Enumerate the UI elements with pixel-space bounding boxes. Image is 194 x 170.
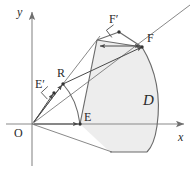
- point-dot-Fprime: [117, 30, 120, 33]
- point-label-R: R: [57, 67, 65, 79]
- axis-label-y: y: [17, 6, 22, 18]
- axis-label-x: x: [178, 131, 183, 143]
- point-label-E: E: [84, 111, 91, 123]
- geometry-figure: [0, 0, 194, 170]
- seg-Fprime-apex: [97, 32, 119, 40]
- point-label-F: F: [147, 32, 154, 44]
- arrow-O-to-Eprime: [34, 94, 53, 122]
- point-label-F-prime: F′: [109, 13, 118, 25]
- point-dot-F: [140, 45, 143, 48]
- point-label-E-prime: E′: [35, 78, 45, 90]
- point-dot-R: [61, 82, 64, 85]
- point-label-O: O: [14, 127, 23, 139]
- region-label-D: D: [143, 93, 154, 108]
- point-dot-Eprime: [52, 91, 55, 94]
- point-dot-E: [78, 122, 81, 125]
